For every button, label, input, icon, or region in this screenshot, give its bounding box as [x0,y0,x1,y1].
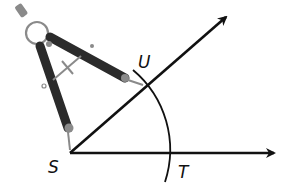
compass-handle [14,3,28,18]
construction-arc [133,70,170,182]
compass-screw-right [90,44,94,48]
compass-pencil-tip [128,80,143,85]
construction-diagram: U S T [0,0,288,190]
compass-hinge-ring [26,22,48,44]
compass-needle [68,132,70,150]
compass-right-joint [46,41,52,47]
label-s: S [48,157,59,177]
compass-icon [14,3,143,150]
compass-left-leg [40,46,68,128]
label-u: U [138,52,151,72]
label-t: T [178,162,190,182]
compass-screw-left [42,84,46,88]
compass-left-pivot [65,124,74,133]
